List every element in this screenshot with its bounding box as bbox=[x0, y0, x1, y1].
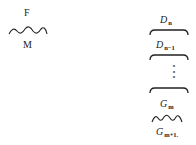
vertical-ellipsis: ⋮ bbox=[166, 64, 182, 80]
label-f: F bbox=[24, 8, 30, 18]
brace-icon bbox=[149, 28, 189, 36]
label-d-n-minus-1: Dn−1 bbox=[156, 40, 175, 53]
brace-icon bbox=[149, 86, 189, 94]
label-d-n: Dn bbox=[160, 15, 172, 28]
brace-icon bbox=[149, 53, 189, 61]
wavy-line-icon bbox=[8, 26, 48, 36]
label-g-m-plus-1: Gm+1. bbox=[156, 127, 178, 140]
label-g-m: Gm bbox=[160, 99, 174, 112]
label-m: M bbox=[23, 40, 32, 50]
wavy-line-icon bbox=[151, 114, 183, 123]
